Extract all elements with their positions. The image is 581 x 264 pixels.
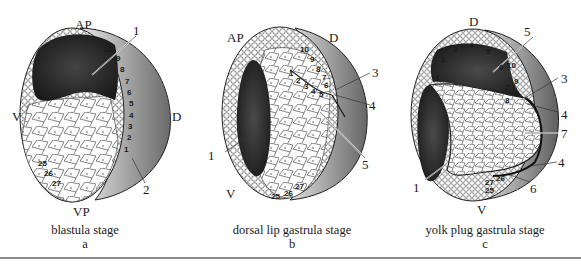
panel-dorsal-lip-gastrula: AP D V 1 3 4 5 10 9 8 7 6 5 4 3 2 1 25 2…	[195, 0, 390, 250]
callout-5: 5	[524, 25, 531, 38]
cell-number: 1	[289, 70, 293, 78]
caption-letter: c	[410, 237, 560, 251]
callout-1: 1	[133, 24, 140, 37]
cell-number: 1	[435, 75, 439, 83]
bottom-divider	[0, 257, 581, 259]
caption-title: dorsal lip gastrula stage	[217, 223, 367, 237]
cell-number: 27	[295, 183, 304, 191]
axis-label-dorsal: D	[469, 15, 478, 28]
caption-title: yolk plug gastrula stage	[410, 223, 560, 237]
callout-4-lower: 4	[558, 156, 565, 169]
cell-number: 25	[271, 193, 280, 201]
axis-label-ventral: V	[226, 187, 235, 200]
caption-blastula: blastula stage a	[30, 223, 140, 251]
cell-number: 2	[296, 77, 300, 85]
axis-label-dorsal: D	[329, 31, 338, 44]
callout-1: 1	[208, 149, 215, 162]
cell-number: 10	[103, 46, 112, 54]
callout-2: 2	[143, 183, 150, 196]
cell-number: 8	[505, 97, 509, 105]
callout-1: 1	[413, 181, 420, 194]
callout-6: 6	[530, 182, 537, 195]
cell-number: 25	[38, 160, 47, 168]
cell-number: 6	[324, 82, 328, 90]
cell-number: 25	[485, 187, 494, 195]
cell-number: 9	[116, 55, 120, 63]
axis-label-ventral: V	[477, 203, 486, 216]
axis-label-vegetal-pole: VP	[73, 205, 90, 218]
cell-number: 8	[120, 66, 124, 74]
caption-dorsal-lip-gastrula: dorsal lip gastrula stage b	[217, 223, 367, 251]
cell-number: 4	[129, 112, 133, 120]
cell-number: 26	[44, 170, 53, 178]
cell-number: 4	[311, 88, 315, 96]
cell-number: 2	[127, 134, 131, 142]
cell-number: 9	[514, 78, 518, 86]
cell-number: 5	[129, 100, 133, 108]
cell-number: 3	[128, 123, 132, 131]
callout-3: 3	[561, 72, 568, 85]
callout-4: 4	[561, 108, 568, 121]
callout-4: 4	[369, 99, 376, 112]
cell-number: 2	[441, 56, 445, 64]
dorsal-lip-gastrula-illustration	[195, 0, 390, 250]
cell-number: 5	[486, 48, 490, 56]
cell-number: 3	[304, 83, 308, 91]
caption-letter: a	[30, 237, 140, 251]
cell-number: 6	[127, 89, 131, 97]
callout-5: 5	[362, 158, 369, 171]
cell-number: 26	[284, 190, 293, 198]
cell-number: 3	[453, 46, 457, 54]
axis-label-dorsal: D	[172, 110, 181, 123]
cell-number: 7	[125, 78, 129, 86]
cell-number: 5	[319, 91, 323, 99]
panel-yolk-plug-gastrula: D V 5 3 4 7 4 6 1 1 2 3 4 5 6 10 9 7 8 2…	[385, 0, 581, 250]
cell-number: 8	[316, 66, 320, 74]
cell-number: 26	[496, 175, 505, 183]
cell-number: 9	[310, 56, 314, 64]
callout-7: 7	[561, 127, 568, 140]
cell-number: 10	[507, 62, 516, 70]
cell-number: 10	[300, 46, 309, 54]
axis-label-ventral: V	[12, 110, 21, 123]
blastula-illustration	[0, 0, 195, 250]
cell-number: 27	[52, 180, 61, 188]
caption-yolk-plug-gastrula: yolk plug gastrula stage c	[410, 223, 560, 251]
cell-number: 4	[469, 42, 473, 50]
caption-title: blastula stage	[30, 223, 140, 237]
cell-number: 6	[499, 64, 503, 72]
cell-number: 1	[124, 146, 128, 154]
cell-number: 7	[505, 84, 509, 92]
callout-3: 3	[372, 66, 379, 79]
caption-letter: b	[217, 237, 367, 251]
axis-label-animal-pole: AP	[75, 18, 92, 31]
panel-blastula: AP VP V D 1 2 10 9 8 7 6 5 4 3 2 1 25 26…	[0, 0, 195, 250]
axis-label-animal-pole: AP	[227, 31, 244, 44]
